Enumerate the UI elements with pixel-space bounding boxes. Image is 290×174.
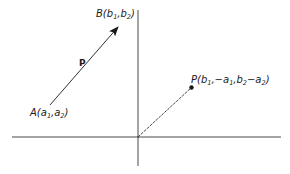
vector-label: P	[79, 58, 86, 68]
point-p-dot	[189, 85, 193, 89]
vector-diagram: P B(b1,b2) A(a1,a2) P(b1,−a1,b2−a2)	[0, 0, 290, 174]
position-vector-op	[138, 88, 191, 137]
point-p-label: P(b1,−a1,b2−a2)	[191, 74, 270, 87]
point-a-label: A(a1,a2)	[29, 107, 68, 120]
point-b-label: B(b1,b2)	[96, 8, 135, 21]
